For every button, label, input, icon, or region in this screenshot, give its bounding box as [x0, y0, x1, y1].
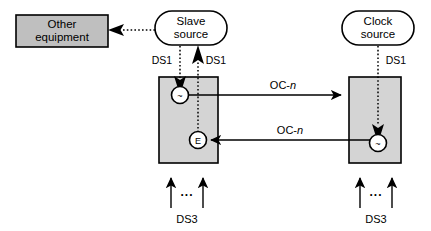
other-equipment-label-line2: equipment: [35, 31, 90, 43]
oc-n-bottom-label-suffix: n: [297, 124, 303, 136]
other-equipment-label-line1: Other: [48, 18, 77, 30]
oc-n-top-label-suffix: n: [290, 79, 296, 91]
left-oscillator-port-symbol: ~: [177, 91, 182, 101]
right-oscillator-port-symbol: ~: [375, 139, 380, 149]
ds1-left-out-label: DS1: [152, 54, 173, 66]
slave-source-label-line2: source: [174, 28, 209, 40]
ds3-right-ellipsis: ...: [369, 185, 382, 199]
slave-source-label-line1: Slave: [177, 15, 206, 27]
ds1-left-in-label: DS1: [206, 54, 227, 66]
oc-n-bottom-label-prefix: OC-: [277, 124, 298, 136]
oc-n-top-label: OC-n: [270, 79, 296, 91]
diagram-canvas: Other equipment Slave source Clock sourc…: [0, 0, 431, 231]
clock-source-label-line1: Clock: [364, 15, 393, 27]
ds3-left-label: DS3: [176, 213, 197, 225]
external-port-to-slave-source-arrowhead: [192, 45, 204, 64]
timing-distribution-diagram: Other equipment Slave source Clock sourc…: [0, 0, 431, 231]
ds3-right-label: DS3: [365, 213, 386, 225]
ds1-right-label: DS1: [386, 54, 407, 66]
left-external-port-symbol: E: [195, 136, 201, 146]
oc-n-bottom-label: OC-n: [277, 124, 303, 136]
slave-to-other-equipment-arrowhead: [108, 24, 124, 36]
oc-n-top-label-prefix: OC-: [270, 79, 291, 91]
clock-source-label-line2: source: [361, 28, 396, 40]
ds3-left-ellipsis: ...: [180, 185, 193, 199]
left-network-element-box: [159, 77, 218, 163]
